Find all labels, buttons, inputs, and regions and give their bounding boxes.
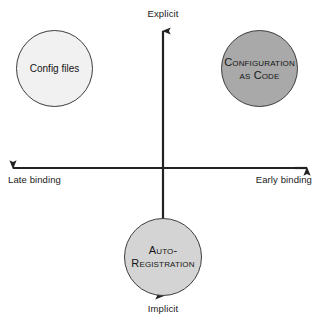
node-configuration-as-code[interactable]: Configuration as Code [221, 30, 298, 107]
node-auto-registration-label-line-2: Registration [131, 257, 194, 269]
axis-label-early-binding: Early binding [256, 174, 312, 185]
node-configuration-as-code-label-line-1: Configuration [224, 56, 295, 68]
axis-label-late-binding: Late binding [8, 174, 61, 185]
node-auto-registration[interactable]: Auto- Registration [124, 218, 202, 296]
axis-label-explicit: Explicit [148, 8, 179, 19]
axis-label-implicit: Implicit [148, 303, 178, 314]
quadrant-diagram: Explicit Implicit Late binding Early bin… [0, 0, 320, 321]
node-auto-registration-label: Auto- Registration [126, 244, 199, 270]
node-config-files-label: Config files [25, 63, 84, 75]
node-auto-registration-label-line-1: Auto- [149, 244, 178, 256]
node-configuration-as-code-label: Configuration as Code [219, 56, 300, 82]
node-configuration-as-code-label-line-2: as Code [239, 69, 279, 81]
node-config-files[interactable]: Config files [16, 30, 93, 107]
